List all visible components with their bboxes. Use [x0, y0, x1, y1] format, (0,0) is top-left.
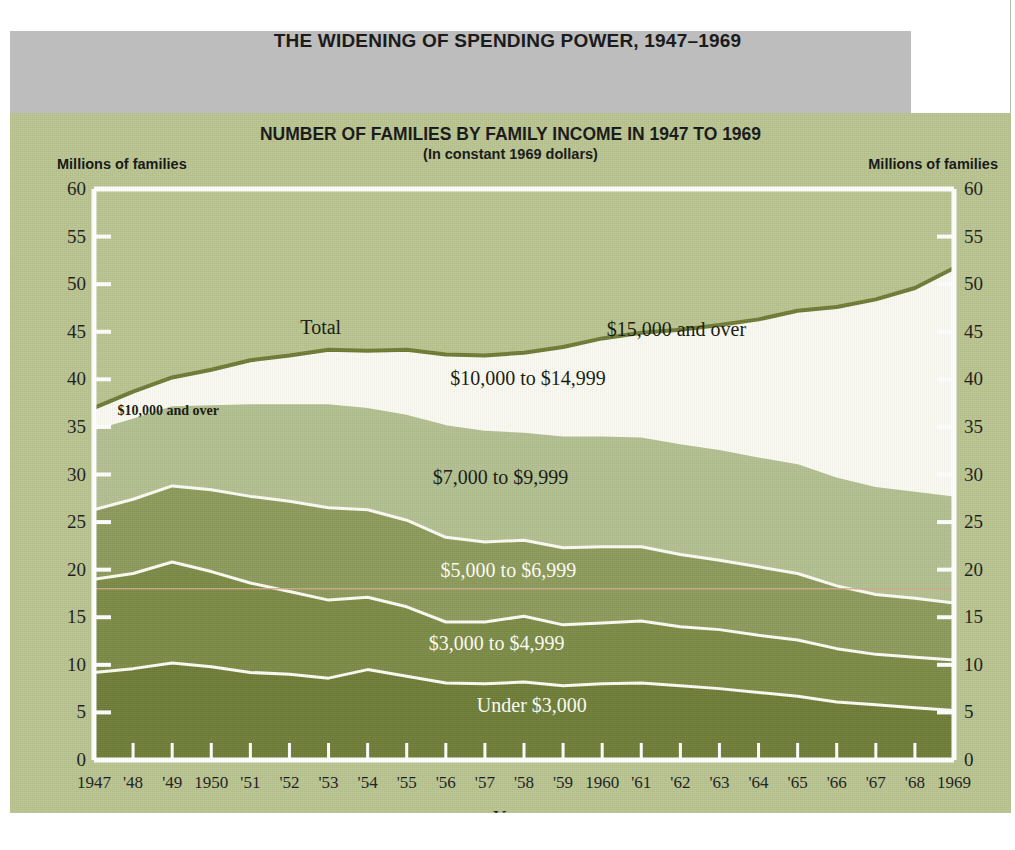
x-tick-label-1958: '58 — [514, 774, 534, 791]
y-tick-label-left: 5 — [46, 702, 86, 721]
plot-area: 0055101015152020252530303535404045455050… — [10, 113, 1011, 813]
band-annotation: $15,000 and over — [607, 319, 746, 339]
x-tick-label-1948: '48 — [123, 774, 143, 791]
y-tick-label-left: 0 — [46, 750, 86, 769]
band-annotation: $10,000 to $14,999 — [450, 368, 606, 388]
band-annotation: $10,000 and over — [118, 404, 220, 418]
x-tick-label-1950: 1950 — [194, 774, 228, 791]
band-annotation: $3,000 to $4,999 — [429, 633, 565, 653]
x-tick-label-1949: '49 — [162, 774, 182, 791]
page-bottom-margin — [0, 813, 1015, 850]
y-tick-label-left: 50 — [46, 274, 86, 293]
y-tick-label-left: 40 — [46, 369, 86, 388]
y-tick-label-right: 10 — [964, 655, 1004, 674]
chart-panel: NUMBER OF FAMILIES BY FAMILY INCOME IN 1… — [10, 113, 1011, 813]
scanned-page: THE WIDENING OF SPENDING POWER, 1947–196… — [0, 0, 1015, 850]
x-tick-label-1962: '62 — [670, 774, 690, 791]
x-tick-label-1951: '51 — [240, 774, 260, 791]
band-annotation: $5,000 to $6,999 — [441, 560, 577, 580]
x-tick-label-1953: '53 — [318, 774, 338, 791]
y-tick-label-right: 5 — [964, 702, 1004, 721]
y-tick-label-left: 20 — [46, 560, 86, 579]
y-tick-label-right: 60 — [964, 179, 1004, 198]
x-tick-label-1961: '61 — [631, 774, 651, 791]
y-tick-label-right: 40 — [964, 369, 1004, 388]
y-tick-label-left: 45 — [46, 322, 86, 341]
x-tick-label-1955: '55 — [397, 774, 417, 791]
y-tick-label-right: 45 — [964, 322, 1004, 341]
y-tick-label-right: 35 — [964, 417, 1004, 436]
x-tick-label-1952: '52 — [279, 774, 299, 791]
x-tick-label-1957: '57 — [475, 774, 495, 791]
y-tick-label-left: 15 — [46, 607, 86, 626]
y-tick-label-left: 35 — [46, 417, 86, 436]
y-tick-label-right: 20 — [964, 560, 1004, 579]
x-tick-label-1963: '63 — [709, 774, 729, 791]
x-tick-label-1968: '68 — [905, 774, 925, 791]
x-tick-label-1964: '64 — [748, 774, 768, 791]
y-tick-label-left: 10 — [46, 655, 86, 674]
band-annotation: Under $3,000 — [477, 695, 587, 715]
band-annotation: $7,000 to $9,999 — [433, 467, 569, 487]
y-tick-label-left: 55 — [46, 227, 86, 246]
x-tick-label-1965: '65 — [788, 774, 808, 791]
x-tick-label-1969: 1969 — [937, 774, 971, 791]
y-tick-label-right: 55 — [964, 227, 1004, 246]
x-tick-label-1967: '67 — [866, 774, 886, 791]
y-tick-label-left: 60 — [46, 179, 86, 198]
y-tick-label-left: 30 — [46, 465, 86, 484]
y-tick-label-right: 0 — [964, 750, 1004, 769]
x-tick-label-1947: 1947 — [77, 774, 111, 791]
x-tick-label-1959: '59 — [553, 774, 573, 791]
page-title: THE WIDENING OF SPENDING POWER, 1947–196… — [0, 30, 1015, 52]
y-tick-label-left: 25 — [46, 512, 86, 531]
y-tick-label-right: 15 — [964, 607, 1004, 626]
x-tick-label-1966: '66 — [827, 774, 847, 791]
y-tick-label-right: 30 — [964, 465, 1004, 484]
x-tick-label-1960: 1960 — [585, 774, 619, 791]
x-tick-label-1954: '54 — [358, 774, 378, 791]
band-annotation: Total — [300, 317, 341, 337]
y-tick-label-right: 50 — [964, 274, 1004, 293]
x-tick-label-1956: '56 — [436, 774, 456, 791]
y-tick-label-right: 25 — [964, 512, 1004, 531]
